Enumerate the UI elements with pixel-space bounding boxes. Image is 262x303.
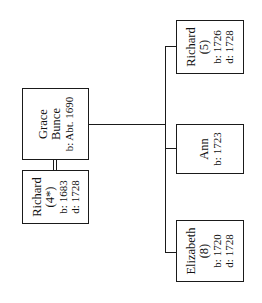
- children-connector-vertical: [165, 46, 166, 253]
- child-connector: [165, 252, 176, 253]
- person-detail: b: 1720: [211, 227, 223, 274]
- person-detail: b: 1726: [211, 27, 223, 67]
- person-name-line: (5): [198, 27, 211, 67]
- person-label: Ann b: 1723: [198, 132, 223, 165]
- person-box-richard-5[interactable]: Richard (5) b: 1726 d: 1728: [176, 20, 244, 74]
- person-label: Grace Bunce b: Abt. 1690: [37, 97, 75, 152]
- person-detail: b: 1723: [211, 132, 223, 165]
- person-detail: d: 1728: [69, 177, 81, 217]
- person-detail: b: 1683: [57, 177, 69, 217]
- person-box-richard-4[interactable]: Richard (4*) b: 1683 d: 1728: [22, 170, 89, 224]
- person-detail: d: 1728: [223, 227, 235, 274]
- person-box-grace-bunce[interactable]: Grace Bunce b: Abt. 1690: [22, 88, 89, 160]
- marriage-connector: [53, 160, 54, 170]
- person-name-line: Bunce: [50, 97, 63, 152]
- child-connector: [165, 46, 176, 47]
- person-box-elizabeth-8[interactable]: Elizabeth (8) b: 1720 d: 1728: [176, 220, 244, 282]
- family-connector-horizontal: [89, 124, 165, 125]
- person-name-line: Grace: [37, 97, 50, 152]
- person-name-line: (8): [198, 227, 211, 274]
- person-label: Richard (5) b: 1726 d: 1728: [185, 27, 235, 67]
- person-name-line: (4*): [44, 177, 57, 217]
- person-detail: d: 1728: [223, 27, 235, 67]
- person-name-line: Richard: [31, 177, 44, 217]
- person-name-line: Ann: [198, 132, 211, 165]
- person-label: Elizabeth (8) b: 1720 d: 1728: [185, 227, 235, 274]
- marriage-connector: [56, 160, 57, 170]
- child-connector: [165, 148, 176, 149]
- person-label: Richard (4*) b: 1683 d: 1728: [31, 177, 81, 217]
- person-detail: b: Abt. 1690: [63, 97, 75, 152]
- person-box-ann[interactable]: Ann b: 1723: [176, 124, 244, 174]
